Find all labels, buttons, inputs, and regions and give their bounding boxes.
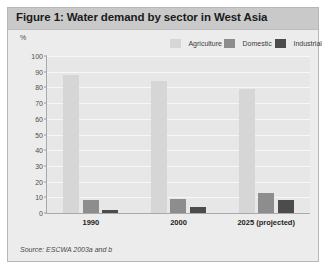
legend-item-agriculture: Agriculture <box>170 33 222 43</box>
x-axis-category-label: 2000 <box>135 218 223 227</box>
y-axis-tick-label: 60 <box>35 115 43 122</box>
legend-label-domestic: Domestic <box>242 40 271 47</box>
bar-industrial-2025-projected- <box>278 200 294 213</box>
legend-swatch-domestic-icon <box>224 39 235 48</box>
bar-industrial-2000 <box>190 207 206 213</box>
y-axis-tick-label: 30 <box>35 162 43 169</box>
x-axis-category-label: 1990 <box>47 218 135 227</box>
bar-group: 1990 <box>47 56 135 213</box>
bar-industrial-1990 <box>102 210 118 213</box>
y-axis-tick-label: 70 <box>35 100 43 107</box>
y-axis-tick-label: 40 <box>35 147 43 154</box>
chart-legend: Agriculture Domestic Industrial <box>8 33 310 45</box>
y-axis-tick-label: 20 <box>35 178 43 185</box>
bar-group: 2000 <box>135 56 223 213</box>
plot-area: 0102030405060708090100199020002025 (proj… <box>46 56 310 214</box>
y-axis-tick-label: 90 <box>35 68 43 75</box>
legend-label-industrial: Industrial <box>293 40 321 47</box>
legend-swatch-agriculture-icon <box>170 39 181 48</box>
legend-item-domestic: Domestic <box>224 33 272 43</box>
bar-agriculture-2000 <box>151 81 167 213</box>
bar-group: 2025 (projected) <box>222 56 310 213</box>
bar-domestic-1990 <box>83 200 99 213</box>
bar-agriculture-2025-projected- <box>239 89 255 213</box>
legend-label-agriculture: Agriculture <box>188 40 221 47</box>
y-axis-tick-label: 50 <box>35 131 43 138</box>
y-axis-tick-label: 80 <box>35 84 43 91</box>
x-axis-category-label: 2025 (projected) <box>222 218 310 227</box>
figure-title: Figure 1: Water demand by sector in West… <box>16 11 267 23</box>
bar-domestic-2025-projected- <box>258 193 274 213</box>
legend-swatch-industrial-icon <box>275 39 286 48</box>
y-axis-tick-label: 100 <box>31 53 43 60</box>
figure-card: Figure 1: Water demand by sector in West… <box>7 7 319 262</box>
y-axis-tick-label: 10 <box>35 194 43 201</box>
bar-agriculture-1990 <box>63 75 79 213</box>
source-note: Source: ESCWA 2003a and b <box>20 246 112 253</box>
figure-title-bar: Figure 1: Water demand by sector in West… <box>8 8 318 30</box>
bar-domestic-2000 <box>170 199 186 213</box>
y-axis-tick-label: 0 <box>39 210 43 217</box>
legend-item-industrial: Industrial <box>275 33 322 43</box>
plot-frame: 0102030405060708090100199020002025 (proj… <box>20 48 312 236</box>
